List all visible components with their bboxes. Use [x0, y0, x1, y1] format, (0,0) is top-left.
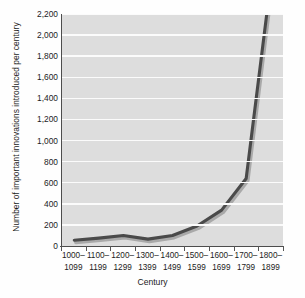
- y-tick-label: 400: [44, 199, 58, 209]
- x-tick-label-line: 1899: [254, 262, 288, 274]
- series-line-shadow: [76, 14, 272, 242]
- gridline: [62, 77, 283, 79]
- y-tick-label: 1,200: [37, 114, 58, 124]
- gridline: [62, 140, 283, 142]
- y-axis-tick-labels: 02004006008001,0001,2001,4001,6001,8002,…: [24, 8, 58, 252]
- gridline: [62, 34, 283, 36]
- y-tick-label: 200: [44, 220, 58, 230]
- y-axis-title: Number of important innovations introduc…: [11, 7, 21, 247]
- y-tick-label: 2,200: [37, 9, 58, 19]
- gridline: [62, 119, 283, 121]
- y-tick-label: 600: [44, 178, 58, 188]
- gridline: [62, 224, 283, 226]
- y-tick-label: 1,800: [37, 51, 58, 61]
- gridline: [62, 98, 283, 100]
- gridline: [62, 55, 283, 57]
- y-tick-label: 1,400: [37, 93, 58, 103]
- x-tick-label: 1800–1899: [254, 250, 288, 273]
- x-axis-line: [60, 246, 283, 248]
- y-tick-label: 2,000: [37, 30, 58, 40]
- x-axis-title: Century: [0, 277, 305, 287]
- series-innovations: [62, 14, 283, 246]
- series-line: [74, 14, 270, 240]
- gridline: [62, 161, 283, 163]
- line-chart: Number of important innovations introduc…: [0, 0, 305, 298]
- y-tick-label: 1,600: [37, 72, 58, 82]
- gridline: [62, 182, 283, 184]
- gridline: [62, 14, 283, 15]
- gridline: [62, 203, 283, 205]
- x-axis-tick-labels: 1000–10991100–11991200–12991300–13991400…: [61, 250, 283, 280]
- y-tick-label: 1,000: [37, 136, 58, 146]
- plot-area: [61, 14, 283, 246]
- x-tick-label-line: 1800–: [254, 250, 288, 262]
- y-tick-label: 800: [44, 157, 58, 167]
